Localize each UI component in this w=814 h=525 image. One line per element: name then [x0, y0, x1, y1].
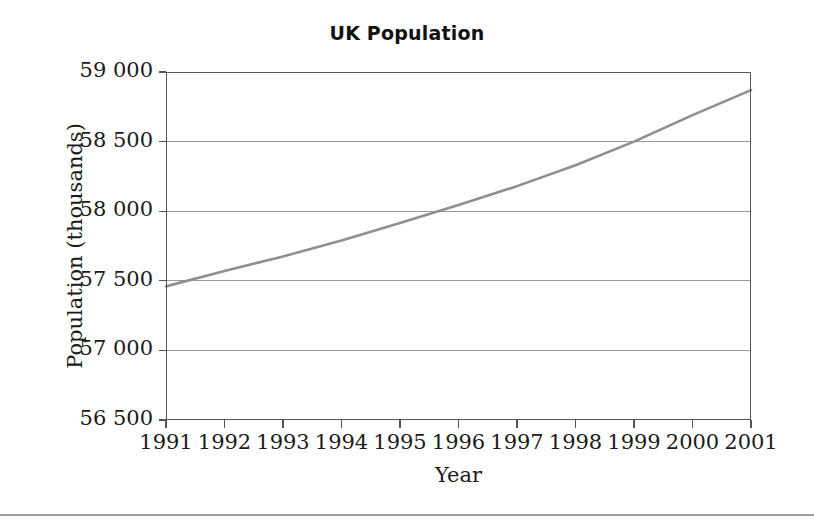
y-tick-label: 56 500: [80, 406, 153, 430]
x-tick-mark: [341, 420, 342, 428]
x-tick-mark: [224, 420, 225, 428]
x-tick-label: 1999: [607, 430, 660, 454]
y-tick-mark: [159, 141, 166, 142]
x-tick-mark: [282, 420, 283, 428]
y-tick-mark: [159, 350, 166, 351]
y-tick-label: 59 000: [80, 58, 153, 82]
x-tick-label: 1994: [315, 430, 368, 454]
x-tick-mark: [575, 420, 576, 428]
x-tick-mark: [750, 420, 751, 428]
y-tick-label: 58 000: [80, 197, 153, 221]
x-tick-label: 1991: [139, 430, 192, 454]
y-tick-mark: [159, 211, 166, 212]
chart-title: UK Population: [0, 22, 814, 44]
x-tick-mark: [633, 420, 634, 428]
x-tick-mark: [692, 420, 693, 428]
plot-frame: [166, 72, 751, 420]
x-tick-label: 1992: [198, 430, 251, 454]
y-axis-title: Population (thousands): [63, 123, 87, 369]
x-axis-title: Year: [166, 463, 751, 487]
x-tick-label: 2001: [724, 430, 777, 454]
y-tick-label: 58 500: [80, 128, 153, 152]
x-tick-label: 1995: [373, 430, 426, 454]
y-tick-label: 57 500: [80, 267, 153, 291]
y-tick-mark: [159, 71, 166, 72]
x-tick-label: 1998: [549, 430, 602, 454]
x-tick-mark: [165, 420, 166, 428]
x-tick-mark: [516, 420, 517, 428]
y-tick-label: 57 000: [80, 336, 153, 360]
x-tick-label: 1993: [256, 430, 309, 454]
x-tick-mark: [399, 420, 400, 428]
bottom-divider: [0, 514, 814, 516]
plot-area: 1991199219931994199519961997199819992000…: [166, 72, 751, 420]
x-tick-label: 2000: [666, 430, 719, 454]
x-tick-mark: [458, 420, 459, 428]
x-tick-label: 1996: [432, 430, 485, 454]
y-axis-title-container: Population (thousands): [62, 72, 88, 420]
x-tick-label: 1997: [490, 430, 543, 454]
y-tick-mark: [159, 280, 166, 281]
chart-figure: UK Population Population (thousands) 199…: [0, 0, 814, 525]
